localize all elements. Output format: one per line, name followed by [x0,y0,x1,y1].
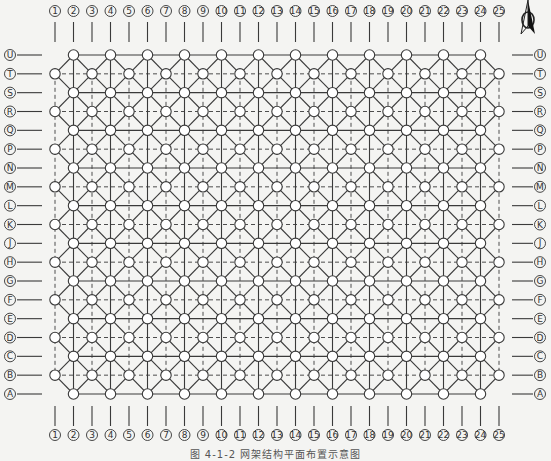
node-25-K [494,219,504,229]
node-14-E [290,313,300,323]
node-12-L [253,200,263,210]
svg-text:D: D [537,333,544,343]
node-20-E [401,313,411,323]
node-23-K [457,219,467,229]
svg-text:10: 10 [216,6,228,16]
node-16-C [327,351,337,361]
node-22-A [438,389,448,399]
node-16-S [327,87,337,97]
node-14-N [290,163,300,173]
node-15-R [309,106,319,116]
row-label-right-L: L [535,200,546,211]
node-7-D [161,332,171,342]
svg-text:R: R [7,107,13,117]
svg-text:D: D [7,333,14,343]
node-3-P [87,144,97,154]
row-label-right-J: J [535,238,546,249]
row-label-left-D: D [5,332,16,343]
figure-caption: 图 4-1-2 网架结构平面布置示意图 [0,446,551,461]
node-11-B [235,370,245,380]
node-12-E [253,313,263,323]
svg-text:17: 17 [345,430,356,440]
node-21-M [420,182,430,192]
svg-text:4: 4 [108,6,114,16]
node-1-P [50,144,60,154]
node-16-J [327,238,337,248]
node-7-K [161,219,171,229]
svg-text:Q: Q [536,125,543,135]
row-label-left-F: F [5,294,16,305]
node-17-B [346,370,356,380]
svg-text:S: S [7,88,13,98]
svg-text:F: F [537,295,542,305]
svg-text:R: R [537,107,543,117]
node-17-T [346,69,356,79]
node-17-D [346,332,356,342]
node-11-K [235,219,245,229]
node-2-N [68,163,78,173]
node-3-D [87,332,97,342]
node-1-K [50,219,60,229]
svg-text:M: M [6,182,14,192]
node-16-U [327,50,337,60]
node-23-B [457,370,467,380]
node-5-K [124,219,134,229]
node-7-T [161,69,171,79]
node-2-A [68,389,78,399]
node-2-G [68,276,78,286]
node-6-U [142,50,152,60]
node-15-P [309,144,319,154]
row-label-right-Q: Q [535,125,546,136]
node-6-Q [142,125,152,135]
node-18-G [364,276,374,286]
row-label-right-C: C [535,351,546,362]
column-label-bottom-5: 5 [124,430,135,441]
node-12-Q [253,125,263,135]
svg-text:22: 22 [438,430,449,440]
node-15-F [309,295,319,305]
svg-text:18: 18 [364,430,376,440]
svg-text:5: 5 [126,430,132,440]
node-18-S [364,87,374,97]
node-10-G [216,276,226,286]
node-11-T [235,69,245,79]
node-11-H [235,257,245,267]
row-label-left-L: L [5,200,16,211]
node-18-A [364,389,374,399]
node-19-M [383,182,393,192]
node-1-R [50,106,60,116]
row-label-left-J: J [5,238,16,249]
node-19-K [383,219,393,229]
row-label-right-M: M [535,181,546,192]
svg-text:6: 6 [145,430,151,440]
svg-text:3: 3 [89,6,95,16]
svg-text:H: H [7,257,14,267]
node-12-N [253,163,263,173]
node-11-R [235,106,245,116]
node-20-G [401,276,411,286]
column-label-bottom-9: 9 [198,430,209,441]
svg-text:11: 11 [234,430,245,440]
node-14-U [290,50,300,60]
column-label-top-14: 14 [290,6,302,17]
svg-text:8: 8 [182,6,188,16]
node-25-D [494,332,504,342]
svg-text:14: 14 [290,430,302,440]
node-15-M [309,182,319,192]
column-label-bottom-10: 10 [216,430,228,441]
row-label-right-P: P [535,144,546,155]
node-13-F [272,295,282,305]
svg-text:1: 1 [52,430,58,440]
node-17-H [346,257,356,267]
column-label-bottom-3: 3 [87,430,98,441]
column-label-bottom-14: 14 [290,430,302,441]
node-16-A [327,389,337,399]
node-10-L [216,200,226,210]
svg-text:21: 21 [419,430,430,440]
node-3-H [87,257,97,267]
node-20-L [401,200,411,210]
node-18-Q [364,125,374,135]
row-label-left-P: P [5,144,16,155]
node-5-P [124,144,134,154]
